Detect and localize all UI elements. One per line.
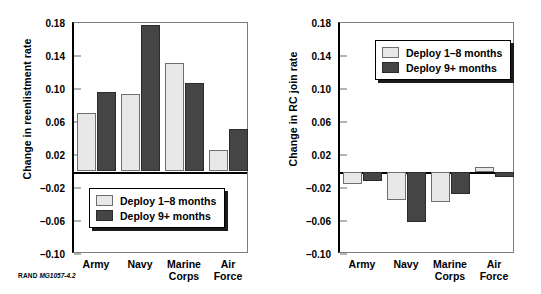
y-axis-title-right: Change in RC join rate (287, 9, 299, 209)
legend-swatch-dark-icon (382, 62, 399, 73)
bar (363, 172, 382, 181)
legend-label: Deploy 9+ months (120, 210, 211, 222)
x-axis-tick-label: Force (480, 270, 509, 282)
y-axis-tickmark (340, 155, 347, 156)
y-axis-tickmark (340, 254, 347, 255)
x-axis-tick-label: Corps (167, 270, 201, 282)
bar (165, 63, 184, 172)
legend-row: Deploy 1–8 months (96, 193, 216, 208)
bar (97, 92, 116, 171)
y-axis-tickmark (340, 56, 347, 57)
y-axis-tickmark (340, 23, 347, 24)
y-axis-tickmark (74, 254, 81, 255)
x-axis-tick-label: Navy (127, 258, 152, 270)
y-axis-tick-label: 0.14 (297, 51, 331, 62)
bar (229, 129, 248, 172)
bar (387, 172, 406, 201)
x-axis-category-label: Army (83, 258, 110, 270)
legend-swatch-light-icon (382, 47, 399, 58)
y-axis-tick-label: 0.18 (31, 18, 65, 29)
credit-brand: RAND (18, 272, 38, 279)
y-axis-tickmark (340, 188, 347, 189)
zero-baseline (74, 172, 247, 174)
bar (121, 94, 140, 172)
figure-credit: RAND MG1057-4.2 (18, 272, 76, 279)
legend-row: Deploy 9+ months (382, 60, 502, 75)
y-axis-tick-label: 0.10 (31, 84, 65, 95)
y-axis-tick-label: 0.10 (297, 84, 331, 95)
legend-row: Deploy 9+ months (96, 208, 216, 223)
y-axis-tickmark (340, 122, 347, 123)
bar (209, 150, 228, 171)
y-axis-tickmark (74, 188, 81, 189)
legend-label: Deploy 1–8 months (406, 47, 502, 59)
legend-left: Deploy 1–8 months Deploy 9+ months (89, 188, 225, 228)
chart-panel-rc-join: Change in RC join rate 0.180.140.100.060… (266, 0, 536, 270)
legend-label: Deploy 1–8 months (120, 195, 216, 207)
y-axis-tickmark (340, 221, 347, 222)
y-axis-title-left: Change in reenlistment rate (21, 9, 33, 209)
legend-swatch-light-icon (96, 195, 113, 206)
x-axis-tick-label: Force (214, 270, 243, 282)
y-axis-tick-label: –0.02 (31, 183, 65, 194)
x-axis-category-label: MarineCorps (433, 258, 467, 282)
bar (451, 172, 470, 194)
bar (407, 172, 426, 222)
y-axis-tickmark (74, 221, 81, 222)
x-axis-tick-label: Navy (393, 258, 418, 270)
y-axis-tick-label: –0.02 (297, 183, 331, 194)
legend-label: Deploy 9+ months (406, 62, 497, 74)
x-axis-category-label: AirForce (480, 258, 509, 282)
credit-figure-number: MG1057-4.2 (39, 272, 75, 279)
y-axis-tick-label: –0.06 (31, 216, 65, 227)
legend-swatch-dark-icon (96, 210, 113, 221)
legend-row: Deploy 1–8 months (382, 45, 502, 60)
legend-right: Deploy 1–8 months Deploy 9+ months (375, 40, 511, 80)
y-axis-tick-label: –0.06 (297, 216, 331, 227)
bar (343, 172, 362, 184)
figure: Change in reenlistment rate 0.180.140.10… (0, 0, 541, 294)
bar (431, 172, 450, 203)
x-axis-category-label: Navy (393, 258, 418, 270)
bar (141, 25, 160, 171)
y-axis-tickmark (74, 23, 81, 24)
bar (77, 113, 96, 172)
x-axis-tick-label: Air (214, 258, 243, 270)
y-axis-tickmark (340, 89, 347, 90)
y-axis-tick-label: 0.02 (297, 150, 331, 161)
x-axis-tick-label: Marine (167, 258, 201, 270)
x-axis-category-label: MarineCorps (167, 258, 201, 282)
x-axis-category-label: Army (349, 258, 376, 270)
y-axis-tick-label: 0.14 (31, 51, 65, 62)
x-axis-tick-label: Army (83, 258, 110, 270)
x-axis-tick-label: Corps (433, 270, 467, 282)
y-axis-tick-label: 0.06 (297, 117, 331, 128)
bar (495, 172, 514, 178)
y-axis-tick-label: –0.10 (297, 249, 331, 260)
x-axis-category-label: AirForce (214, 258, 243, 282)
y-axis-tick-label: 0.06 (31, 117, 65, 128)
y-axis-tickmark (74, 56, 81, 57)
x-axis-tick-label: Air (480, 258, 509, 270)
y-axis-tick-label: 0.18 (297, 18, 331, 29)
y-axis-tick-label: 0.02 (31, 150, 65, 161)
chart-panel-reenlistment: Change in reenlistment rate 0.180.140.10… (0, 0, 270, 270)
bar (475, 167, 494, 171)
x-axis-tick-label: Marine (433, 258, 467, 270)
y-axis-tick-label: –0.10 (31, 249, 65, 260)
y-axis-tickmark (74, 89, 81, 90)
bar (185, 83, 204, 171)
x-axis-tick-label: Army (349, 258, 376, 270)
x-axis-category-label: Navy (127, 258, 152, 270)
